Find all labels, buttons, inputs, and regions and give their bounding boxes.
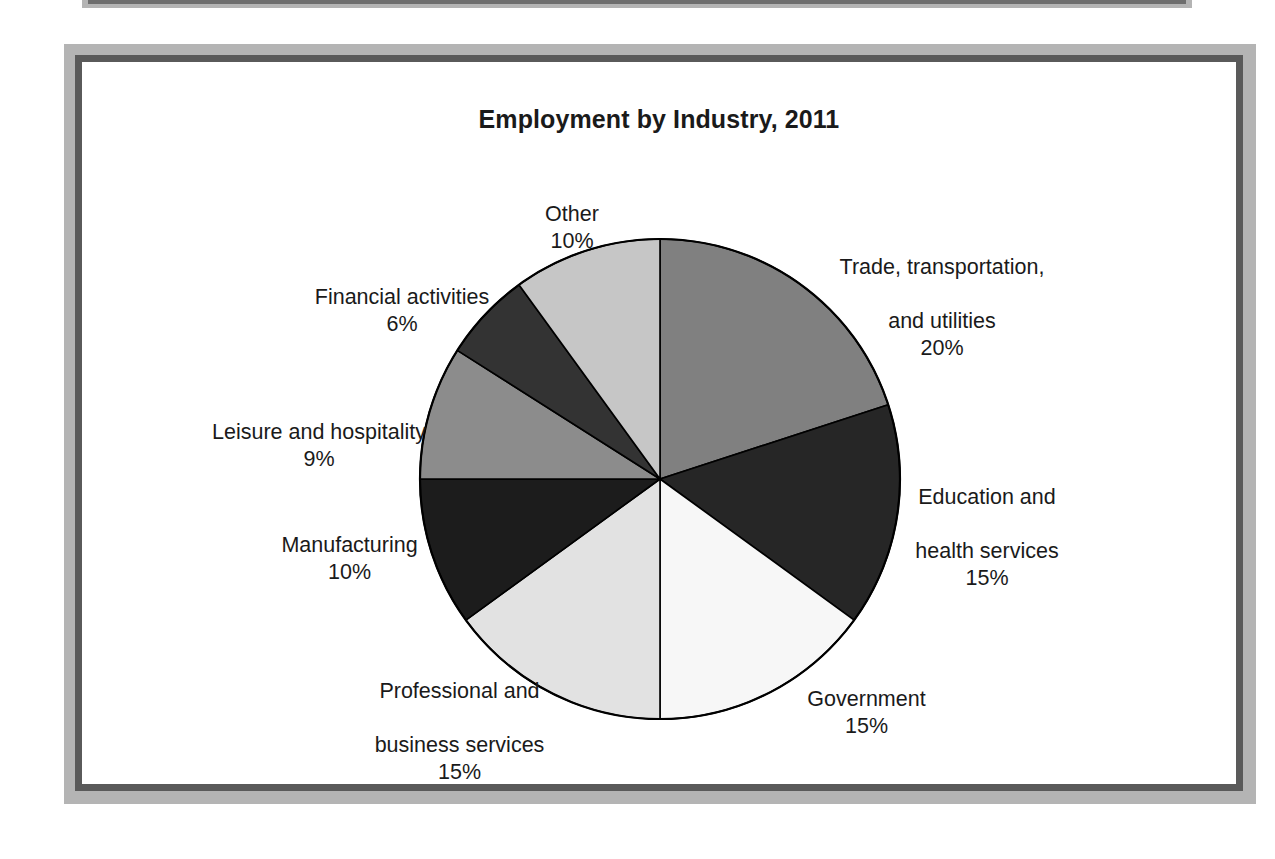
slice-label-education-and-health-services: Education and health services 15% [872,457,1102,619]
slice-label-other-text: Other [545,202,599,226]
slice-label-other-pct: 10% [482,228,662,255]
top-divider-inner [88,0,1186,4]
slice-label-education-and-health-services-text-1: Education and [918,485,1055,509]
slice-label-professional-and-business-services: Professional and business services 15% [337,651,582,813]
slice-label-trade-transportation-and-utilities-text-1: Trade, transportation, [840,255,1045,279]
slice-label-education-and-health-services-pct: 15% [872,565,1102,592]
slice-label-professional-and-business-services-text-1: Professional and [379,679,539,703]
figure-frame-inner: Employment by Industry, 2011 Other 10% F… [75,55,1243,791]
slice-label-government: Government 15% [754,659,979,767]
slice-label-leisure-and-hospitality: Leisure and hospitality 9% [174,392,464,500]
figure-frame-outer: Employment by Industry, 2011 Other 10% F… [64,44,1256,804]
slice-label-manufacturing-text: Manufacturing [281,533,417,557]
slice-label-financial-activities-pct: 6% [272,311,532,338]
slice-label-government-text: Government [807,687,925,711]
slice-label-professional-and-business-services-pct: 15% [337,759,582,786]
slice-label-financial-activities-text: Financial activities [315,285,489,309]
slice-label-financial-activities: Financial activities 6% [272,257,532,365]
slice-label-leisure-and-hospitality-text: Leisure and hospitality [212,420,426,444]
slice-label-education-and-health-services-text-2: health services [915,539,1058,563]
chart-canvas: Employment by Industry, 2011 Other 10% F… [82,62,1236,784]
slice-label-trade-transportation-and-utilities-text-2: and utilities [888,309,996,333]
slice-label-government-pct: 15% [754,713,979,740]
slice-label-trade-transportation-and-utilities-pct: 20% [787,335,1097,362]
slice-label-leisure-and-hospitality-pct: 9% [174,446,464,473]
top-divider-strip [82,0,1192,8]
slice-label-trade-transportation-and-utilities: Trade, transportation, and utilities 20% [787,227,1097,389]
slice-label-manufacturing-pct: 10% [232,559,467,586]
slice-label-manufacturing: Manufacturing 10% [232,505,467,613]
slice-label-professional-and-business-services-text-2: business services [375,733,545,757]
